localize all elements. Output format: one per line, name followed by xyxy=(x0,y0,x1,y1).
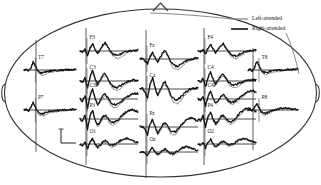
electrode-label-c3: C3 xyxy=(89,65,95,70)
electrode-label-cz: Cz xyxy=(149,73,155,78)
trace-right-attended-f3 xyxy=(80,42,138,56)
waveform-panel-f4 xyxy=(198,38,256,64)
trace-right-attended-o1 xyxy=(80,138,138,149)
trace-right-attended-o2 xyxy=(198,138,256,149)
electrode-label-p7: P7 xyxy=(38,95,44,100)
electrode-label-f4: F4 xyxy=(207,35,213,40)
electrode-label-o1: O1 xyxy=(89,129,95,134)
electrode-label-c3p: C3P xyxy=(89,83,98,88)
waveform-panel-p8 xyxy=(248,98,298,122)
waveform-panel-fz xyxy=(140,46,198,72)
electrode-label-fz: Fz xyxy=(149,43,154,48)
column-rules xyxy=(36,28,253,178)
leader-line-lower xyxy=(286,33,299,74)
leader-line-upper xyxy=(150,13,231,19)
electrode-label-o2: O2 xyxy=(207,129,213,134)
electrode-label-t7: T7 xyxy=(38,55,44,60)
waveform-panel-o2 xyxy=(198,132,256,156)
electrode-label-p4: P4 xyxy=(207,103,213,108)
waveform-panel-c3p xyxy=(80,86,138,112)
nose-icon xyxy=(153,3,168,11)
electrode-label-oz: Oz xyxy=(149,137,155,142)
waveform-panel-t8 xyxy=(248,58,298,82)
waveform-panel-f3 xyxy=(80,38,138,64)
electrode-label-pz: Pz xyxy=(149,111,154,116)
trace-right-attended-t7 xyxy=(24,61,76,73)
trace-right-attended-p4 xyxy=(198,108,256,128)
waveform-panel-oz xyxy=(140,140,198,164)
electrode-label-f3: F3 xyxy=(89,35,95,40)
waveform-panel-c3 xyxy=(80,68,138,94)
electrode-label-c4p: C4P xyxy=(207,83,216,88)
trace-right-attended-pz xyxy=(140,117,198,135)
scale-bar xyxy=(59,129,77,143)
legend-leader-lines xyxy=(150,13,299,74)
electrode-label-t8: T8 xyxy=(262,55,268,60)
electrode-label-p3: P3 xyxy=(89,103,95,108)
waveform-panel-o1 xyxy=(80,132,138,156)
legend-label-right-attended: Right-attended xyxy=(252,26,285,32)
legend-label-left-attended: Left-attended xyxy=(252,16,282,22)
electrode-label-p8: P8 xyxy=(262,95,268,100)
trace-right-attended-f4 xyxy=(198,43,256,57)
waveform-panel-p7 xyxy=(24,98,76,122)
waveform-panel-cz xyxy=(140,76,198,104)
waveform-panel-c4 xyxy=(198,68,256,94)
electrode-label-c4: C4 xyxy=(207,65,213,70)
waveform-panels xyxy=(24,38,298,164)
trace-right-attended-oz xyxy=(140,146,198,156)
waveform-panel-t7 xyxy=(24,58,76,82)
trace-right-attended-cz xyxy=(140,77,198,100)
erp-topographic-figure: F3FzF4T7C3CzC4C3PC4PP7P3PzP4T8P8O1OzO2Le… xyxy=(0,0,321,185)
